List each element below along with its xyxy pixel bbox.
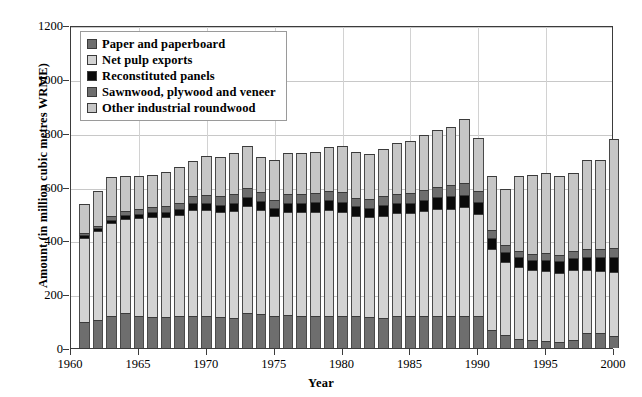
bar-segment — [582, 257, 593, 270]
bar-segment — [351, 216, 362, 316]
legend-item[interactable]: Reconstituted panels — [87, 68, 276, 84]
x-axis-tick — [70, 349, 71, 355]
y-axis-tick-label: 200 — [23, 289, 63, 302]
y-axis-tick — [63, 134, 69, 135]
bar-segment — [568, 258, 579, 270]
bar-segment — [432, 209, 443, 316]
bar-segment — [541, 271, 552, 342]
bar-column[interactable] — [392, 25, 403, 348]
legend-item[interactable]: Other industrial roundwood — [87, 100, 276, 116]
bar-segment — [134, 176, 145, 209]
bar-segment — [487, 230, 498, 238]
bar-segment — [582, 249, 593, 257]
bar-column[interactable] — [351, 25, 362, 348]
bar-segment — [242, 313, 253, 348]
bar-column[interactable] — [609, 25, 620, 348]
legend-item-label: Reconstituted panels — [102, 70, 215, 83]
bar-segment — [378, 205, 389, 215]
bar-segment — [500, 252, 511, 262]
bar-segment — [514, 267, 525, 339]
bar-column[interactable] — [541, 25, 552, 348]
bar-column[interactable] — [527, 25, 538, 348]
bar-segment — [174, 215, 185, 316]
bar-segment — [419, 135, 430, 189]
legend-item[interactable]: Paper and paperboard — [87, 36, 276, 52]
x-axis-tick-label: 1975 — [249, 358, 299, 371]
bar-segment — [296, 153, 307, 194]
legend-item[interactable]: Net pulp exports — [87, 52, 276, 68]
bar-segment — [514, 257, 525, 267]
bar-column[interactable] — [446, 25, 457, 348]
bar-segment — [242, 206, 253, 313]
bar-segment — [364, 208, 375, 218]
bar-segment — [378, 149, 389, 196]
bar-segment — [106, 216, 117, 219]
bar-segment — [201, 210, 212, 316]
bar-column[interactable] — [487, 25, 498, 348]
bar-segment — [473, 191, 484, 202]
bar-segment — [188, 316, 199, 348]
bar-column[interactable] — [554, 25, 565, 348]
bar-segment — [174, 316, 185, 348]
bar-segment — [609, 336, 620, 348]
bar-segment — [324, 191, 335, 200]
legend-item[interactable]: Sawnwood, plywood and veneer — [87, 84, 276, 100]
bar-column[interactable] — [405, 25, 416, 348]
y-axis-tick-label: 1000 — [23, 74, 63, 87]
x-axis-tick — [342, 349, 343, 355]
x-axis-tick — [477, 349, 478, 355]
bar-column[interactable] — [473, 25, 484, 348]
bar-column[interactable] — [459, 25, 470, 348]
bar-column[interactable] — [500, 25, 511, 348]
bar-segment — [487, 330, 498, 348]
bar-segment — [459, 207, 470, 315]
bar-segment — [432, 187, 443, 197]
bar-column[interactable] — [296, 25, 307, 348]
bar-column[interactable] — [364, 25, 375, 348]
bar-segment — [79, 235, 90, 237]
x-axis-tick — [545, 349, 546, 355]
bar-segment — [459, 119, 470, 183]
bar-column[interactable] — [514, 25, 525, 348]
bar-segment — [93, 320, 104, 348]
y-axis-tick — [63, 80, 69, 81]
bar-segment — [201, 195, 212, 203]
bar-segment — [595, 160, 606, 250]
bar-segment — [405, 203, 416, 214]
bar-segment — [527, 254, 538, 260]
bar-segment — [609, 248, 620, 257]
bar-segment — [595, 333, 606, 348]
bar-segment — [392, 194, 403, 203]
bar-segment — [229, 194, 240, 203]
bar-segment — [527, 270, 538, 339]
bar-segment — [487, 176, 498, 230]
bar-segment — [527, 260, 538, 270]
bar-segment — [446, 196, 457, 208]
bar-segment — [554, 176, 565, 255]
bar-column[interactable] — [582, 25, 593, 348]
bar-column[interactable] — [432, 25, 443, 348]
bar-segment — [364, 217, 375, 317]
bar-segment — [161, 317, 172, 348]
bar-column[interactable] — [595, 25, 606, 348]
bar-segment — [473, 202, 484, 214]
bar-column[interactable] — [568, 25, 579, 348]
bar-segment — [541, 341, 552, 348]
bar-segment — [473, 214, 484, 316]
x-axis-title: Year — [0, 376, 642, 391]
bar-segment — [310, 202, 321, 212]
bar-column[interactable] — [378, 25, 389, 348]
bar-column[interactable] — [324, 25, 335, 348]
bar-segment — [337, 202, 348, 212]
bar-column[interactable] — [419, 25, 430, 348]
bar-column[interactable] — [337, 25, 348, 348]
bar-segment — [609, 272, 620, 336]
bar-column[interactable] — [310, 25, 321, 348]
bar-segment — [541, 260, 552, 271]
bar-segment — [256, 157, 267, 192]
x-axis-tick — [409, 349, 410, 355]
bar-segment — [324, 200, 335, 210]
bar-segment — [432, 130, 443, 187]
bar-segment — [554, 342, 565, 348]
bar-segment — [79, 233, 90, 235]
